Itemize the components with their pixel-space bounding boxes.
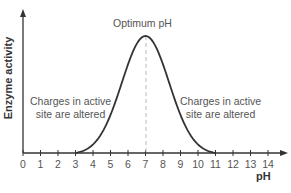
- x-tick-label: 11: [210, 158, 221, 170]
- x-tick-label: 4: [90, 158, 96, 170]
- enzyme-ph-chart: Enzyme activity Optimum pH Charges in ac…: [0, 0, 291, 193]
- x-tick-label: 5: [108, 158, 114, 170]
- y-axis-arrow-icon: [20, 9, 26, 17]
- left-annotation: Charges in active site are altered: [30, 95, 111, 121]
- y-axis-label: Enzyme activity: [0, 10, 16, 145]
- x-tick-label: 7: [143, 158, 149, 170]
- x-tick-label: 1: [38, 158, 44, 170]
- x-tick-label: 14: [262, 158, 274, 170]
- x-tick-label: 3: [73, 158, 79, 170]
- x-tick-label: 12: [227, 158, 239, 170]
- x-tick-label: 2: [55, 158, 61, 170]
- x-tick-label: 0: [20, 158, 26, 170]
- x-axis-label: pH: [256, 170, 271, 182]
- right-annotation: Charges in active site are altered: [180, 95, 261, 121]
- optimum-label: Optimum pH: [113, 17, 172, 30]
- x-tick-label: 8: [160, 158, 166, 170]
- x-tick-label: 6: [125, 158, 131, 170]
- x-tick-label: 13: [245, 158, 257, 170]
- x-tick-label: 9: [178, 158, 184, 170]
- x-tick-label: 10: [192, 158, 204, 170]
- x-axis-arrow-icon: [280, 150, 288, 156]
